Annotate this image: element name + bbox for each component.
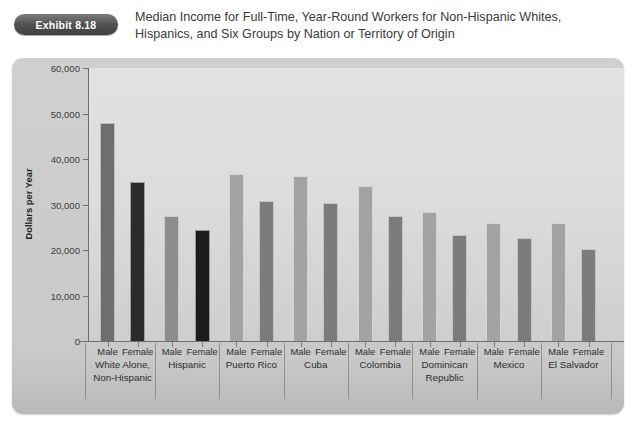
x-axis-group-separator (284, 343, 285, 399)
x-axis-group-separator (219, 343, 220, 399)
bar (452, 235, 467, 341)
x-axis-gender-label: Female (121, 346, 155, 357)
y-axis-tick-label: 50,000 (28, 108, 80, 119)
chart-title-line-2: Hispanics, and Six Groups by Nation or T… (135, 26, 625, 43)
bar (130, 182, 145, 341)
y-axis-tick-label: 40,000 (28, 154, 80, 165)
chart-title: Median Income for Full-Time, Year-Round … (135, 9, 625, 43)
bar (323, 203, 338, 341)
bar (358, 186, 373, 341)
y-axis-tick-mark (83, 250, 88, 251)
x-axis-gender-label: Male (219, 346, 253, 357)
y-axis-tick-mark (83, 114, 88, 115)
x-axis-gender-label: Male (413, 346, 447, 357)
x-axis-group-separator (412, 343, 413, 399)
x-axis-group-separator (477, 343, 478, 399)
bar (293, 176, 308, 341)
y-axis-tick-label: 60,000 (28, 63, 80, 74)
chart-frame: Dollars per Year 010,00020,00030,00040,0… (12, 58, 624, 414)
x-axis-group-separator (611, 343, 612, 399)
x-axis-group-separator (85, 343, 86, 399)
bar (164, 216, 179, 341)
y-axis-line (88, 68, 89, 342)
x-axis-gender-label: Male (155, 346, 189, 357)
chart-title-line-1: Median Income for Full-Time, Year-Round … (135, 9, 625, 26)
x-axis-gender-label: Male (348, 346, 382, 357)
x-axis-group-label: El Salvador (530, 359, 616, 372)
x-axis-group-label-line: Republic (402, 372, 488, 385)
bar (388, 216, 403, 341)
bar (195, 230, 210, 341)
x-axis-group-separator (155, 343, 156, 399)
y-axis-tick-label: 30,000 (28, 199, 80, 210)
bar (259, 201, 274, 341)
x-axis-gender-label: Male (91, 346, 125, 357)
bar (229, 174, 244, 341)
bar (551, 223, 566, 341)
x-axis-gender-label: Female (443, 346, 477, 357)
bar (581, 249, 596, 341)
x-axis-group-separator (348, 343, 349, 399)
y-axis-tick-mark (83, 296, 88, 297)
x-axis-gender-label: Female (185, 346, 219, 357)
x-axis-gender-label: Female (572, 346, 606, 357)
bar (100, 123, 115, 341)
bar (422, 212, 437, 341)
y-axis-tick-label: 20,000 (28, 245, 80, 256)
x-axis-group-label-line: Non-Hispanic (80, 372, 166, 385)
x-axis-labels: MaleFemaleMaleFemaleMaleFemaleMaleFemale… (80, 342, 624, 404)
x-axis-gender-label: Female (378, 346, 412, 357)
chart-page: Exhibit 8.18 Median Income for Full-Time… (0, 0, 636, 435)
y-axis-tick-mark (83, 205, 88, 206)
x-axis-group-label-line: El Salvador (530, 359, 616, 372)
x-axis-gender-label: Female (250, 346, 284, 357)
chart-header: Exhibit 8.18 Median Income for Full-Time… (0, 0, 636, 58)
bar (517, 238, 532, 341)
y-axis-tick-mark (83, 159, 88, 160)
y-axis-tick-label: 0 (28, 336, 80, 347)
exhibit-number-badge: Exhibit 8.18 (14, 14, 118, 35)
y-axis-tick-mark (83, 68, 88, 69)
x-axis-gender-label: Female (507, 346, 541, 357)
x-axis-gender-label: Male (284, 346, 318, 357)
x-axis-group-separator (541, 343, 542, 399)
y-axis-tick-label: 10,000 (28, 290, 80, 301)
x-axis-gender-label: Male (541, 346, 575, 357)
x-axis-gender-label: Male (477, 346, 511, 357)
bar (486, 223, 501, 341)
x-axis-gender-label: Female (314, 346, 348, 357)
